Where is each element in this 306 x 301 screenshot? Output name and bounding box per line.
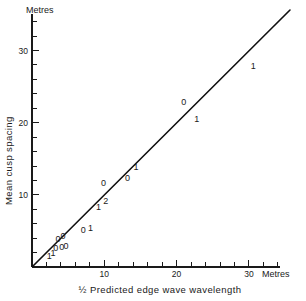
x-tick-label-10: 10 (100, 269, 110, 279)
x-axis-unit-label: Metres (262, 269, 290, 279)
data-point-marker: 1 (88, 223, 93, 233)
data-point-marker: 0 (61, 231, 66, 241)
data-point-marker: 2 (103, 196, 108, 206)
data-point-marker: 0 (53, 243, 58, 253)
y-tick-label-10: 10 (19, 190, 29, 200)
x-tick-label-30: 30 (244, 269, 254, 279)
y-axis-minor-ticks (32, 22, 37, 253)
y-tick-label-20: 20 (19, 118, 29, 128)
y-axis-title: Mean cusp spacing (3, 116, 14, 205)
scatter-plot-canvas: 10 20 30 10 20 30 Metres Metres Mean cus… (0, 0, 306, 301)
data-point-marker: 1 (251, 61, 256, 71)
data-point-group: 11000000112001011 (47, 61, 256, 261)
y-tick-label-30: 30 (19, 46, 29, 56)
data-point-marker: 0 (81, 225, 86, 235)
chart-figure: 10 20 30 10 20 30 Metres Metres Mean cus… (0, 0, 306, 301)
x-axis-minor-ticks (47, 262, 278, 267)
x-axis-major-ticks (104, 260, 249, 267)
data-point-marker: 0 (181, 97, 186, 107)
data-point-marker: 0 (125, 173, 130, 183)
data-point-marker: 0 (101, 178, 106, 188)
y-axis-major-ticks (32, 50, 39, 194)
data-point-marker: 1 (96, 202, 101, 212)
data-point-marker: 0 (63, 241, 68, 251)
y-axis-unit-label: Metres (26, 5, 54, 15)
x-axis-title: ½ Predicted edge wave wavelength (79, 284, 242, 295)
data-point-marker: 1 (134, 162, 139, 172)
x-tick-label-20: 20 (172, 269, 182, 279)
data-point-marker: 1 (194, 114, 199, 124)
reference-line-1to1 (33, 10, 290, 266)
